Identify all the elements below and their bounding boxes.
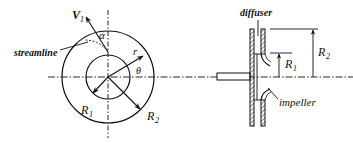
- impeller-leader: [268, 88, 278, 99]
- front-plate-lower: [261, 100, 265, 126]
- theta-label: θ: [136, 65, 141, 76]
- r-label: r: [133, 45, 138, 57]
- alpha-label: α: [99, 29, 105, 41]
- impeller-blade-upper-inner: [265, 54, 271, 62]
- inner-radius-subscript: 1: [89, 110, 93, 119]
- inner-radius-arrow: [93, 77, 108, 93]
- side-outer-radius-subscript: 2: [326, 52, 330, 61]
- shaft: [217, 73, 250, 80]
- streamline-label: streamline: [13, 47, 58, 58]
- velocity-subscript: 1: [80, 15, 84, 24]
- front-view: V 1 α streamline r θ R 1 R 2: [13, 8, 353, 138]
- outer-radius-label: R: [146, 109, 155, 123]
- side-view: diffuser impeller R 1 R 2: [217, 7, 330, 126]
- side-inner-radius-subscript: 1: [293, 64, 297, 73]
- front-plate-upper: [261, 29, 265, 54]
- impeller-blade-lower-inner: [265, 92, 271, 100]
- centrifugal-pump-diagram: V 1 α streamline r θ R 1 R 2: [0, 0, 353, 143]
- back-plate: [250, 29, 254, 126]
- streamline-leader: [60, 42, 88, 50]
- side-inner-radius-label: R: [284, 57, 293, 71]
- inner-radius-label: R: [80, 103, 89, 117]
- outer-radius-arrow: [108, 77, 140, 109]
- diffuser-label: diffuser: [240, 7, 272, 18]
- outer-radius-subscript: 2: [155, 116, 159, 125]
- side-outer-radius-label: R: [317, 45, 326, 59]
- impeller-label: impeller: [279, 96, 316, 108]
